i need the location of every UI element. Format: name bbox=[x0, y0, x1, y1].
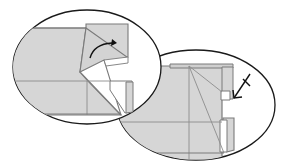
left-detail-panel bbox=[0, 10, 161, 124]
origami-diagram bbox=[0, 0, 289, 165]
